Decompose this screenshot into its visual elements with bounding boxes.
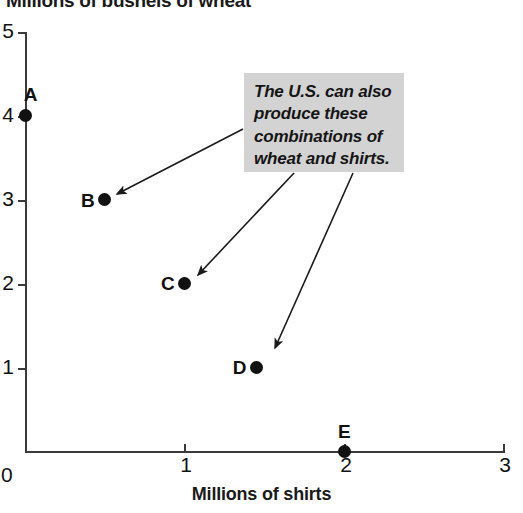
y-axis-tick-5: 5 [18,32,25,34]
data-point-label-b: B [81,190,95,209]
y-axis-tick-2: 2 [18,284,25,286]
annotation-callout-text: The U.S. can alsoproduce thesecombinatio… [254,81,394,171]
y-axis-tick-label-1: 1 [2,356,14,377]
x-axis-line [25,451,505,453]
x-axis-tick-label-1: 1 [176,454,196,475]
y-axis-tick-label-2: 2 [2,272,14,293]
data-point-label-c: C [161,274,175,293]
annotation-line: The U.S. can also [254,81,394,103]
y-axis-tick-label-3: 3 [2,188,14,209]
data-point-e [338,445,351,458]
data-point-label-a: A [24,85,38,104]
data-point-c [178,277,191,290]
x-axis-label: Millions of shirts [0,484,523,505]
y-axis-tick-label-5: 5 [2,20,14,41]
x-axis-tick-label-3: 3 [495,454,515,475]
chart-container: Millions of bushels of wheat 5 4 3 2 1 0… [0,0,523,513]
data-point-label-e: E [338,422,351,441]
x-axis-tick-1: 1 [184,444,186,451]
data-point-b [98,193,111,206]
y-axis-tick-label-4: 4 [2,104,14,125]
data-point-a [19,109,32,122]
data-point-label-d: D [233,358,247,377]
annotation-line: produce these [254,103,394,125]
y-axis-tick-1: 1 [18,368,25,370]
y-axis-tick-3: 3 [18,200,25,202]
x-axis-tick-3: 3 [503,444,505,451]
annotation-line: combinations of [254,126,394,148]
data-point-d [250,361,263,374]
chart-title: Millions of bushels of wheat [6,0,251,12]
annotation-line: wheat and shirts. [254,148,394,170]
axis-origin-label: 0 [1,464,13,485]
annotation-callout-box: The U.S. can alsoproduce thesecombinatio… [244,73,404,172]
